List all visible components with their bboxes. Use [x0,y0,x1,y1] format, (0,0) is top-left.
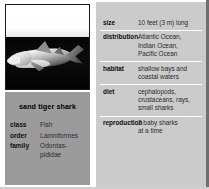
table-row: family Odontas- pididae [10,142,90,159]
table-row: habitat shallow bays and coastal waters [100,61,202,84]
table-row: order Lamniformes [10,132,90,141]
fact-label-distribution: distribution [100,33,136,41]
left-panel: sand tiger shark class Fish order Lamnif… [0,2,96,187]
table-row: class Fish [10,121,90,130]
taxonomy-rows: class Fish order Lamniformes family Odon… [5,121,90,159]
text-line: Indian Ocean, [138,42,202,50]
taxonomy-label-class: class [10,121,40,130]
text-line: cephalopods, [138,88,202,96]
text-line: coastal waters [138,73,202,81]
text-line: shallow bays and [138,65,202,73]
text-line: at a time [138,127,202,135]
taxonomy-value-order: Lamniformes [40,132,78,141]
frame-right-edge [206,0,209,189]
taxonomy-label-family: family [10,142,40,151]
text-line: small sharks [138,104,202,112]
table-row: reproduction 2 baby sharks at a time [100,116,202,139]
shark-photo [5,4,90,90]
text-line: Fish [40,121,52,128]
fact-label-size: size [100,19,136,27]
fact-label-diet: diet [100,88,136,96]
fact-value-diet: cephalopods, crustaceans, rays, small sh… [136,88,202,113]
fact-label-reproduction: reproduction [100,119,136,127]
text-line: Lamniformes [40,132,78,139]
fact-value-size: 10 feet (3 m) long [136,19,202,27]
taxonomy-label-order: order [10,132,40,141]
taxonomy-value-family: Odontas- pididae [40,142,90,159]
photo-sky-band [6,5,89,37]
fact-value-habitat: shallow bays and coastal waters [136,65,202,82]
text-line: 2 baby sharks [138,119,202,127]
table-row: distribution Atlantic Ocean, Indian Ocea… [100,30,202,61]
frame-bottom-edge [0,187,209,189]
text-line: 10 feet (3 m) long [138,19,202,27]
shark-icon-snout [7,56,21,64]
taxonomy-value-class: Fish [40,121,52,130]
species-fact-box: sand tiger shark class Fish order Lamnif… [0,0,209,189]
text-line: Atlantic Ocean, [138,33,202,41]
species-name: sand tiger shark [5,92,90,111]
text-line: pididae [40,151,61,158]
table-row: diet cephalopods, crustaceans, rays, sma… [100,84,202,115]
text-line: crustaceans, rays, [138,96,202,104]
text-line: Odontas- [40,142,67,149]
fact-value-distribution: Atlantic Ocean, Indian Ocean, Pacific Oc… [136,33,202,58]
fact-value-reproduction: 2 baby sharks at a time [136,119,202,136]
right-panel: size 10 feet (3 m) long distribution Atl… [96,2,206,187]
facts-table: size 10 feet (3 m) long distribution Atl… [100,16,202,139]
fact-label-habitat: habitat [100,65,136,73]
taxonomy-table: sand tiger shark class Fish order Lamnif… [5,92,90,185]
text-line: Pacific Ocean [138,50,202,58]
table-row: size 10 feet (3 m) long [100,16,202,30]
